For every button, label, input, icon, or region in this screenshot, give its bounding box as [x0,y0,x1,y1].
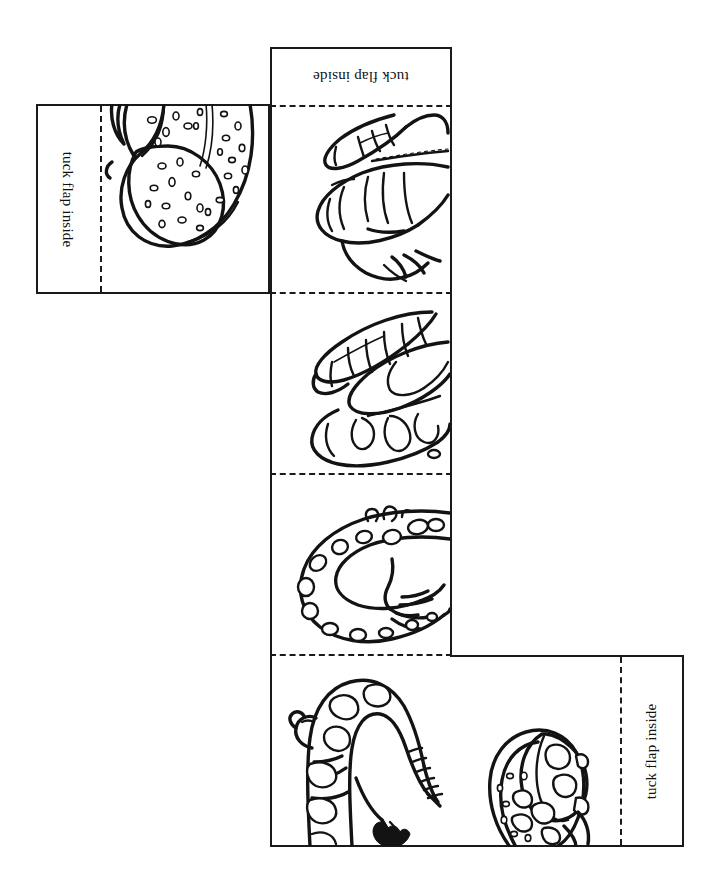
left-flap-label: tuck flap inside [36,104,100,294]
fold-line-panel1-panel2 [270,292,452,294]
fold-line-left-flap [100,106,102,292]
fold-line-panel2-panel3 [270,473,452,475]
right-flap-label: tuck flap inside [620,657,684,845]
left-flap-label-text: tuck flap inside [60,151,77,247]
right-flap-label-text: tuck flap inside [644,703,661,799]
fold-line-right-flap [620,657,622,845]
main-strip [270,105,452,847]
top-flap-label: tuck flap inside [270,47,452,105]
fold-line-panel3-panel4 [270,654,452,656]
top-flap-label-text: tuck flap inside [313,68,409,85]
fold-line-top-flap [270,105,452,107]
template-sheet: tuck flap inside tuck flap inside [0,0,722,878]
